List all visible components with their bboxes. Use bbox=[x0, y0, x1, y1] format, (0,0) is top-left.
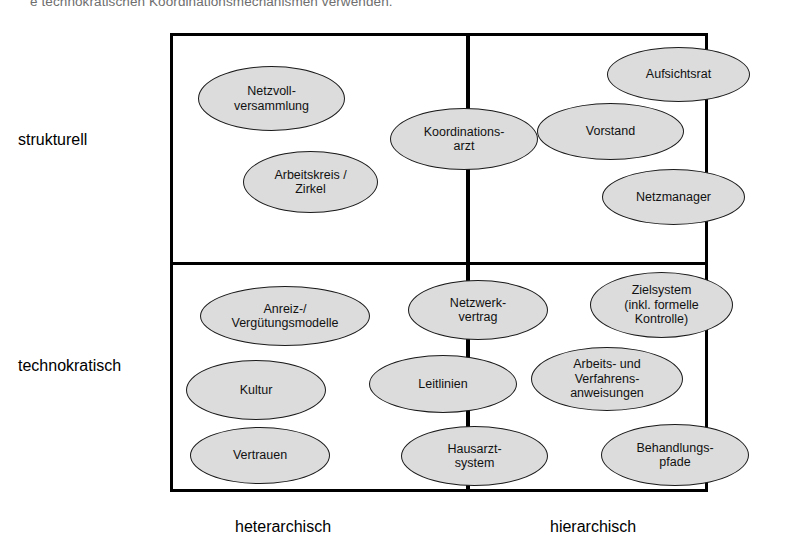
matrix-horizontal-divider bbox=[170, 262, 708, 265]
matrix-vertical-divider bbox=[466, 33, 470, 492]
node-label: Kultur bbox=[236, 383, 277, 397]
node-label: Zielsystem (inkl. formelle Kontrolle) bbox=[620, 283, 702, 326]
node-netzmanager[interactable]: Netzmanager bbox=[602, 169, 745, 225]
node-label: Arbeitskreis / Zirkel bbox=[270, 168, 350, 197]
node-label: Koordinations- arzt bbox=[420, 125, 509, 154]
node-label: Aufsichtsrat bbox=[642, 67, 715, 81]
node-label: Anreiz-/ Vergütungsmodelle bbox=[227, 302, 342, 331]
node-label: Vertrauen bbox=[229, 448, 291, 462]
column-label-hierarchisch: hierarchisch bbox=[550, 518, 636, 536]
node-label: Vorstand bbox=[582, 124, 639, 138]
node-kultur[interactable]: Kultur bbox=[186, 360, 326, 420]
node-label: Arbeits- und Verfahrens- anweisungen bbox=[566, 357, 648, 400]
node-behandlungspfade[interactable]: Behandlungs- pfade bbox=[601, 424, 749, 486]
column-label-heterarchisch: heterarchisch bbox=[235, 518, 331, 536]
page-caption-text: e technokratischen Koordinationsmechanis… bbox=[30, 0, 393, 9]
node-label: Hausarzt- system bbox=[443, 442, 505, 471]
node-aufsichtsrat[interactable]: Aufsichtsrat bbox=[607, 47, 750, 102]
node-label: Netzwerk- vertrag bbox=[446, 296, 510, 325]
node-koordinationsarzt[interactable]: Koordinations- arzt bbox=[390, 108, 538, 170]
node-label: Netzmanager bbox=[632, 190, 715, 204]
row-label-technokratisch: technokratisch bbox=[18, 357, 121, 375]
node-netzwerkvertrag[interactable]: Netzwerk- vertrag bbox=[408, 280, 548, 340]
node-label: Netzvoll- versammlung bbox=[230, 84, 313, 113]
node-arbeits-verfahrensanweisungen[interactable]: Arbeits- und Verfahrens- anweisungen bbox=[531, 347, 683, 411]
node-vertrauen[interactable]: Vertrauen bbox=[190, 427, 330, 484]
node-leitlinien[interactable]: Leitlinien bbox=[369, 355, 517, 413]
node-hausarztsystem[interactable]: Hausarzt- system bbox=[401, 426, 548, 486]
node-vorstand[interactable]: Vorstand bbox=[537, 103, 684, 160]
node-zielsystem[interactable]: Zielsystem (inkl. formelle Kontrolle) bbox=[590, 272, 733, 338]
node-arbeitskreis-zirkel[interactable]: Arbeitskreis / Zirkel bbox=[243, 151, 378, 213]
node-label: Leitlinien bbox=[414, 377, 471, 391]
node-netzvollversammlung[interactable]: Netzvoll- versammlung bbox=[198, 66, 345, 131]
node-label: Behandlungs- pfade bbox=[632, 441, 717, 470]
row-label-strukturell: strukturell bbox=[18, 131, 87, 149]
diagram-canvas: e technokratischen Koordinationsmechanis… bbox=[0, 0, 790, 549]
node-anreiz-verguetungsmodelle[interactable]: Anreiz-/ Vergütungsmodelle bbox=[200, 286, 370, 346]
